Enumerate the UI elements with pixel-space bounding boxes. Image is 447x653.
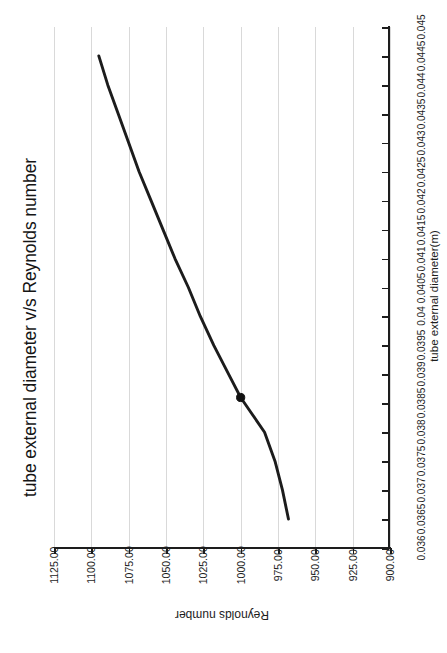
diameter-tick xyxy=(382,201,389,203)
diameter-tick xyxy=(382,345,389,347)
reynolds-tick-label: 1125.00 xyxy=(49,532,60,598)
diameter-tick xyxy=(382,27,389,29)
reynolds-tick-label: 1100.00 xyxy=(86,532,97,598)
reynolds-tick-label: 1075.00 xyxy=(123,532,134,598)
data-series-layer xyxy=(54,27,390,548)
diameter-tick xyxy=(382,172,389,174)
reynolds-tick-label: 1050.00 xyxy=(161,532,172,598)
diameter-tick xyxy=(382,143,389,145)
diameter-tick xyxy=(382,403,389,405)
diameter-tick xyxy=(382,85,389,87)
reynolds-tick-label: 1000.00 xyxy=(235,532,246,598)
diameter-tick xyxy=(382,114,389,116)
diameter-tick xyxy=(382,56,389,58)
data-point-marker xyxy=(237,393,245,401)
diameter-tick xyxy=(382,519,389,521)
diameter-tick xyxy=(382,461,389,463)
diameter-tick-label: 0.045 xyxy=(392,0,447,57)
diameter-tick xyxy=(382,316,389,318)
chart-page: tube external diameter v/s Reynolds numb… xyxy=(0,0,447,653)
diameter-tick xyxy=(382,432,389,434)
diameter-tick xyxy=(382,230,389,232)
reynolds-tick-label: 950.00 xyxy=(310,532,321,598)
reynolds-axis-line xyxy=(54,547,391,549)
reynolds-tick-label: 1025.00 xyxy=(198,532,209,598)
diameter-tick xyxy=(382,374,389,376)
diameter-tick xyxy=(382,490,389,492)
plot-area xyxy=(54,27,390,548)
diameter-tick xyxy=(382,259,389,261)
y-axis-title: Reynolds number xyxy=(122,608,322,622)
reynolds-tick-label: 925.00 xyxy=(347,532,358,598)
chart-title: tube external diameter v/s Reynolds numb… xyxy=(20,93,41,563)
diameter-tick xyxy=(382,288,389,290)
x-axis-title: tube external diameter(m) xyxy=(428,206,440,386)
data-line xyxy=(99,56,289,519)
reynolds-tick-label: 975.00 xyxy=(273,532,284,598)
